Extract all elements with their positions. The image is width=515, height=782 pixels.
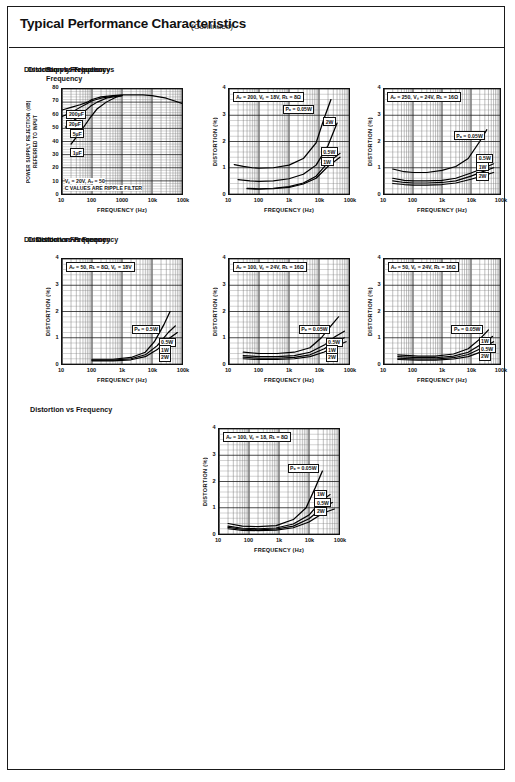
x-tick-label: 100k — [344, 368, 356, 374]
x-tick-label: 10k — [305, 538, 314, 544]
x-tick-label: 10k — [148, 368, 157, 374]
x-tick-label: 100 — [408, 368, 417, 374]
x-tick-label: 100 — [244, 538, 253, 544]
plot-area-supply-rejection-vs-frequency: 8070605040302010010100100010k100kFREQUEN… — [61, 88, 183, 195]
x-tick-label: 10k — [315, 198, 324, 204]
x-axis-label: FREQUENCY (Hz) — [218, 547, 340, 553]
curve-label: 2W — [159, 353, 172, 362]
x-tick-label: 10k — [148, 198, 157, 204]
chart-conditions: Vₛ = 20V, Aᵥ = 50 — [65, 178, 105, 184]
chart-conditions: Aᵥ = 50, Vₛ = 24V, Rʟ = 16Ω — [388, 262, 459, 272]
x-tick-label: 10k — [467, 368, 476, 374]
curve-label: 2W — [326, 353, 339, 362]
plot-area-distortion-av250-vs24-rl16: 43210101001k10k100kFREQUENCY (Hz)Aᵥ = 25… — [383, 88, 501, 195]
x-tick-label: 10 — [215, 538, 221, 544]
x-tick-label: 100k — [177, 198, 189, 204]
x-tick-label: 10k — [315, 368, 324, 374]
x-tick-label: 100 — [254, 368, 263, 374]
y-tick-label: 20 — [37, 165, 59, 171]
curve-label: 5µF — [70, 129, 84, 138]
y-tick-label: 10 — [37, 179, 59, 185]
x-tick-label: 100k — [334, 538, 346, 544]
x-tick-label: 10 — [380, 198, 386, 204]
y-axis-label: DISTORTION (%) — [212, 88, 218, 195]
y-axis-label: POWER SUPPLY REJECTION (dB) REFERRED TO … — [25, 88, 39, 195]
y-tick-label: 70 — [37, 99, 59, 105]
x-tick-label: 100 — [87, 198, 96, 204]
curve-label: Pₒ = 0.05W — [454, 131, 486, 140]
curve-label: 200µF — [66, 110, 86, 119]
x-tick-label: 10 — [58, 368, 64, 374]
plot-area-distortion-av100-vs18-rl8: 43210101001k10k100kFREQUENCY (Hz)Aᵥ = 10… — [218, 428, 340, 535]
curve-label: 1W — [321, 157, 334, 166]
curve-label: 2W — [314, 507, 327, 516]
x-tick-label: 1k — [119, 368, 125, 374]
x-tick-label: 10 — [58, 198, 64, 204]
x-tick-label: 1k — [439, 198, 445, 204]
y-tick-label: 0 — [37, 192, 59, 198]
plot-area-distortion-av50-rl8-vs18: 43210101001k10k100kFREQUENCY (Hz)Aᵥ = 50… — [61, 258, 183, 365]
x-tick-label: 100k — [495, 198, 507, 204]
page-title-continued: (Continued) — [191, 22, 233, 31]
curve-label: 2W — [476, 172, 489, 181]
curve-label: 2W — [323, 117, 336, 126]
curve-label: 20µF — [66, 120, 83, 129]
x-tick-label: 100 — [87, 368, 96, 374]
x-tick-label: 10 — [225, 198, 231, 204]
plot-grid-and-curves — [219, 429, 339, 534]
x-tick-label: 100k — [344, 198, 356, 204]
chart-title: Distortion vs Frequency — [24, 66, 174, 75]
curve-label: 1µF — [70, 148, 84, 157]
x-tick-label: 1k — [286, 368, 292, 374]
chart-title: Distortion vs Frequency — [30, 406, 190, 415]
chart-conditions: C VALUES ARE RIPPLE FILTER — [65, 185, 142, 191]
x-tick-label: 1k — [439, 368, 445, 374]
x-tick-label: 100 — [254, 198, 263, 204]
x-axis-label: FREQUENCY (Hz) — [228, 207, 350, 213]
chart-conditions: Aᵥ = 50, Rʟ = 8Ω, Vₛ = 18V — [66, 262, 135, 272]
x-tick-label: 100k — [495, 368, 507, 374]
x-tick-label: 100 — [408, 198, 417, 204]
y-axis-label: DISTORTION (%) — [367, 88, 373, 195]
curve-label: Pₒ = 0.05W — [299, 325, 331, 334]
plot-area-distortion-av100-vs24-rl16: 43210101001k10k100kFREQUENCY (Hz)Aᵥ = 10… — [228, 258, 350, 365]
plot-area-distortion-av200-vs18-rl8: 43210101001k10k100kFREQUENCY (Hz)Aᵥ = 20… — [228, 88, 350, 195]
x-axis-label: FREQUENCY (Hz) — [383, 377, 501, 383]
curve-label: 1W — [476, 162, 489, 171]
curve-label: 2W — [479, 352, 492, 361]
chart-conditions: Aᵥ = 100, Vₛ = 24V, Rʟ = 16Ω — [233, 262, 307, 272]
chart-title: Distortion vs Frequency — [24, 236, 174, 245]
x-axis-label: FREQUENCY (Hz) — [61, 377, 183, 383]
y-tick-label: 40 — [37, 139, 59, 145]
y-axis-label: DISTORTION (%) — [367, 258, 373, 365]
x-axis-label: FREQUENCY (Hz) — [383, 207, 501, 213]
x-tick-label: 1k — [276, 538, 282, 544]
y-tick-label: 60 — [37, 112, 59, 118]
y-axis-label: DISTORTION (%) — [202, 428, 208, 535]
chart-conditions: Aᵥ = 100, Vₛ = 18, Rʟ = 8Ω — [223, 432, 291, 442]
curve-label: Pₒ = 0.05W — [451, 325, 483, 334]
y-tick-label: 30 — [37, 152, 59, 158]
chart-conditions: Aᵥ = 250, Vₛ = 24V, Rʟ = 16Ω — [387, 92, 461, 102]
y-tick-label: 50 — [37, 125, 59, 131]
x-tick-label: 10k — [467, 198, 476, 204]
curve-label: Pₒ = 0.05W — [288, 464, 320, 473]
curve-label: 0.5W — [321, 147, 338, 156]
x-tick-label: 10 — [225, 368, 231, 374]
x-tick-label: 10 — [380, 368, 386, 374]
x-tick-label: 1k — [286, 198, 292, 204]
y-axis-label: DISTORTION (%) — [212, 258, 218, 365]
plot-frame — [218, 428, 340, 535]
curve-label: Pₒ = 0.5W — [132, 325, 161, 334]
y-tick-label: 80 — [37, 85, 59, 91]
plot-area-distortion-av50-vs24-rl16: 43210101001k10k100kFREQUENCY (Hz)Aᵥ = 50… — [383, 258, 501, 365]
x-tick-label: 100k — [177, 368, 189, 374]
chart-conditions: Aᵥ = 200, Vₛ = 18V, Rʟ = 8Ω — [233, 92, 304, 102]
x-axis-label: FREQUENCY (Hz) — [228, 377, 350, 383]
x-axis-label: FREQUENCY (Hz) — [61, 207, 183, 213]
y-axis-label: DISTORTION (%) — [45, 258, 51, 365]
x-tick-label: 1000 — [116, 198, 128, 204]
curve-label: Pₒ = 0.05W — [283, 105, 315, 114]
